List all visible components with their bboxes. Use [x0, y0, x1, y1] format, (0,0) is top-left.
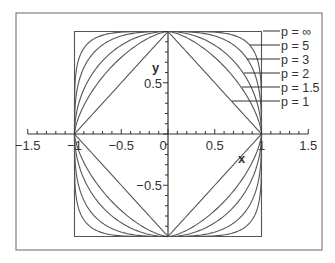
outer-frame: [16, 13, 322, 250]
legend-label: p = 5: [281, 39, 309, 53]
x-tick-label: −1: [67, 138, 82, 153]
legend-label: p = ∞: [281, 25, 311, 39]
x-tick-label: −0.5: [108, 138, 134, 153]
x-tick-label: −1.5: [15, 138, 41, 153]
legend-label: p = 2: [281, 67, 309, 81]
x-tick-label: 1: [258, 138, 265, 153]
y-tick-label: −0.5: [136, 178, 162, 193]
x-tick-label: 1.5: [299, 138, 317, 153]
y-axis-label: y: [152, 60, 160, 75]
x-tick-label: 0: [159, 138, 166, 153]
y-tick-label: 0.5: [144, 76, 162, 91]
x-axis-label: x: [238, 151, 246, 166]
unit-ball-chart: −1.5−1−0.500.511.5−0.50.5xy p = ∞p = 5p …: [0, 0, 335, 263]
chart-container: −1.5−1−0.500.511.5−0.50.5xy p = ∞p = 5p …: [0, 0, 335, 263]
legend-label: p = 1.5: [281, 81, 320, 95]
legend-group: p = ∞p = 5p = 3p = 2p = 1.5p = 1: [232, 25, 320, 109]
legend-label: p = 3: [281, 53, 309, 67]
legend-label: p = 1: [281, 95, 309, 109]
axes-group: −1.5−1−0.500.511.5−0.50.5xy: [15, 32, 317, 237]
x-tick-label: 0.5: [206, 138, 224, 153]
